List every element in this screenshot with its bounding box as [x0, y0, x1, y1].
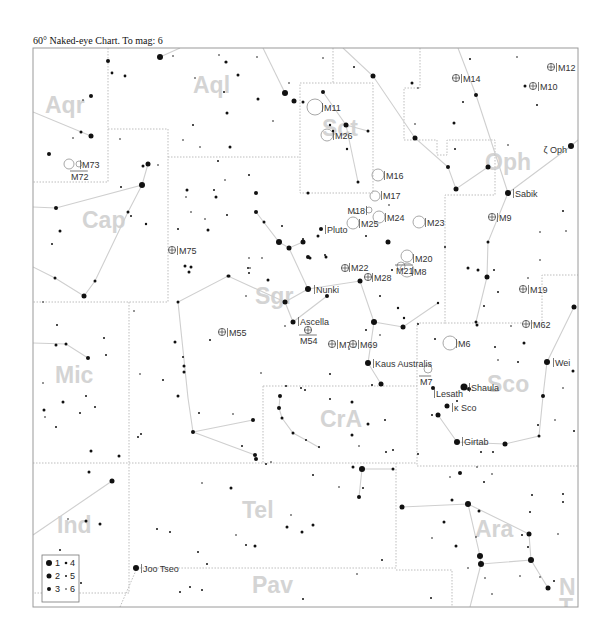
star [528, 557, 534, 563]
star [59, 549, 61, 551]
star [562, 387, 564, 389]
dso-m75: M75 [168, 246, 196, 256]
star [401, 325, 406, 330]
star [477, 553, 483, 559]
star [184, 265, 187, 268]
star [321, 90, 325, 94]
star [449, 476, 451, 478]
star [156, 528, 158, 530]
star [127, 211, 130, 214]
star [194, 77, 196, 79]
dso-label: M69 [360, 340, 378, 350]
star [437, 302, 439, 304]
star [302, 598, 304, 600]
star [507, 144, 509, 146]
star [371, 74, 376, 79]
open-cluster-icon [307, 99, 323, 115]
legend-star-icon [47, 574, 52, 579]
dso-label: M11 [324, 103, 341, 113]
star [290, 514, 292, 516]
dso-m54: M54 [299, 326, 318, 346]
star [521, 534, 523, 536]
dso-label: M21 [396, 266, 414, 276]
star [263, 221, 266, 224]
star [397, 307, 399, 309]
constellation-line [33, 164, 148, 208]
star [329, 398, 331, 400]
star [192, 124, 194, 126]
dso-label: M28 [374, 273, 392, 283]
star [352, 466, 355, 469]
star [43, 409, 46, 412]
star [573, 430, 575, 432]
star [54, 277, 57, 280]
star-name-label: Wei [555, 358, 570, 368]
star [110, 479, 115, 484]
star [248, 174, 250, 176]
star [371, 384, 373, 386]
constellation-line [193, 420, 253, 432]
star [553, 580, 555, 582]
dso-label: M22 [351, 263, 369, 273]
star [403, 317, 405, 319]
star [487, 241, 490, 244]
star [544, 359, 550, 365]
constellation-line [160, 48, 180, 57]
star [467, 567, 469, 569]
star [305, 286, 311, 292]
star [527, 546, 529, 548]
star-name-label: Nunki [316, 285, 339, 295]
star [190, 266, 193, 269]
star [478, 561, 484, 567]
star [348, 348, 350, 350]
star [357, 495, 361, 499]
star [224, 60, 227, 63]
star [309, 257, 312, 260]
star [124, 75, 127, 78]
star [146, 162, 151, 167]
constellation-name: Mic [55, 362, 94, 388]
star [302, 238, 304, 240]
star [312, 474, 314, 476]
star [145, 223, 147, 225]
constellation-line [263, 48, 285, 93]
star [307, 192, 310, 195]
star [229, 146, 232, 149]
star [379, 334, 381, 336]
star [142, 165, 145, 168]
star [537, 424, 539, 426]
star [329, 373, 331, 375]
sky-chart: AqrAqlSctOphCapSgrMicCrAScoIndTelPavAraN… [0, 0, 611, 640]
dso-m9: M9 [488, 213, 511, 223]
star [302, 101, 305, 104]
star [319, 227, 323, 231]
constellation-name: Ind [57, 512, 92, 538]
star [338, 486, 340, 488]
star [94, 406, 96, 408]
star [189, 586, 191, 588]
constellation-line [368, 322, 381, 384]
star [111, 72, 114, 75]
star [286, 526, 289, 529]
star [245, 544, 247, 546]
constellation-name: Sgr [255, 283, 293, 309]
dso-m73: M73 [76, 160, 100, 170]
star [139, 182, 145, 188]
star [90, 450, 93, 453]
star [381, 559, 383, 561]
star [476, 324, 479, 327]
star [89, 134, 94, 139]
star [254, 210, 258, 214]
star [157, 54, 163, 60]
star [384, 419, 386, 421]
star [454, 148, 456, 150]
constellation-name: CrA [320, 406, 362, 432]
star-name-label: Lesath [436, 389, 463, 399]
magnitude-legend: 142536 [42, 555, 79, 602]
star [281, 417, 284, 420]
star [445, 404, 450, 409]
star [248, 272, 250, 274]
star [59, 230, 62, 233]
star [365, 329, 367, 331]
star [276, 239, 282, 245]
